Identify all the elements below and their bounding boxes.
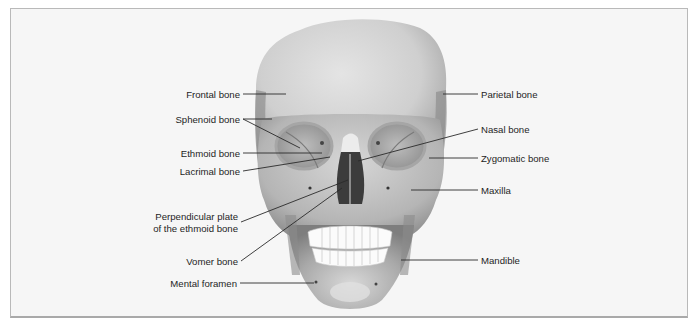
label-perpendicular-plate-line1: Perpendicular plate: [155, 211, 238, 222]
right-orbit: [369, 123, 425, 169]
label-zygomatic-bone: Zygomatic bone: [481, 153, 549, 164]
label-mandible: Mandible: [481, 255, 520, 266]
label-vomer-bone: Vomer bone: [186, 256, 238, 267]
label-lacrimal-bone: Lacrimal bone: [180, 166, 240, 177]
label-perpendicular-plate-line2: of the ethmoid bone: [153, 223, 238, 234]
label-maxilla: Maxilla: [481, 185, 511, 196]
label-nasal-bone: Nasal bone: [481, 124, 530, 135]
skull-illustration: [0, 0, 699, 329]
label-frontal-bone: Frontal bone: [186, 89, 240, 100]
label-parietal-bone: Parietal bone: [481, 89, 538, 100]
teeth: [308, 226, 392, 267]
label-mental-foramen: Mental foramen: [170, 278, 237, 289]
label-sphenoid-bone: Sphenoid bone: [175, 114, 240, 125]
label-ethmoid-bone: Ethmoid bone: [181, 148, 240, 159]
